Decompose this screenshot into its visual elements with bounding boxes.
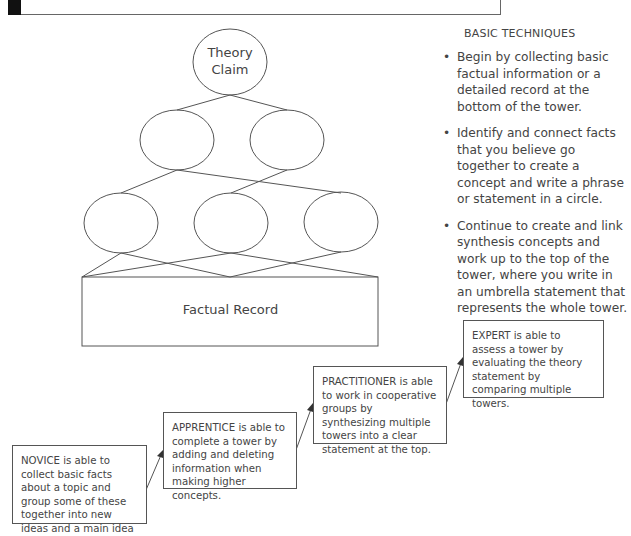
expert-box: EXPERT is able to assess a tower by eval… (463, 320, 604, 398)
connector-line (231, 253, 378, 277)
theory-claim-label: Theory Claim (193, 44, 267, 78)
progression-arrow (446, 363, 461, 404)
technique-text: Begin by collecting basic factual inform… (457, 50, 609, 114)
bullet-icon: • (443, 49, 450, 66)
technique-item: • Begin by collecting basic factual info… (440, 49, 630, 115)
bullet-icon: • (443, 218, 450, 235)
techniques-list: • Begin by collecting basic factual info… (440, 49, 630, 327)
factual-record-label: Factual Record (82, 302, 379, 317)
theory-label-line1: Theory (193, 44, 267, 61)
technique-text: Continue to create and link synthesis co… (457, 219, 627, 316)
progression-arrow (296, 409, 311, 450)
technique-item: • Continue to create and link synthesis … (440, 218, 630, 317)
connector-line (121, 253, 230, 277)
claim-label-line2: Claim (193, 61, 267, 78)
techniques-title: BASIC TECHNIQUES (464, 27, 575, 40)
concept-node (84, 193, 158, 253)
concept-node (304, 192, 378, 252)
connector-line (82, 253, 231, 277)
connector-line (231, 170, 287, 193)
novice-box: NOVICE is able to collect basic facts ab… (12, 445, 147, 524)
connector-line (230, 95, 287, 110)
concept-node (140, 110, 214, 170)
concept-node (194, 193, 268, 253)
apprentice-box: APPRENTICE is able to complete a tower b… (163, 412, 297, 489)
progression-arrow (146, 455, 161, 490)
connector-line (177, 95, 230, 110)
technique-item: • Identify and connect facts that you be… (440, 125, 630, 208)
technique-text: Identify and connect facts that you beli… (457, 126, 624, 206)
connector-line (121, 170, 177, 193)
practitioner-box: PRACTITIONER is able to work in cooperat… (313, 366, 447, 444)
bullet-icon: • (443, 125, 450, 142)
concept-node (250, 110, 324, 170)
